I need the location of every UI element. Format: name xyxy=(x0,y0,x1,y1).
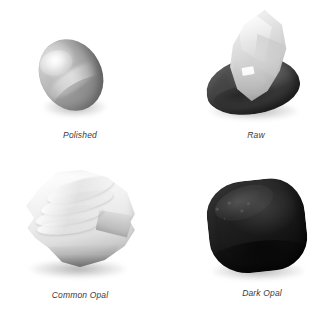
common-opal-stone xyxy=(24,170,136,270)
common-opal-dark-edge xyxy=(96,210,134,242)
dark-opal-stone xyxy=(203,175,310,277)
specimen-caption-dark-opal: Dark Opal xyxy=(200,288,324,298)
specimen-caption-polished: Polished xyxy=(34,130,126,140)
surface-grain xyxy=(209,197,257,229)
polished-highlight-band xyxy=(44,56,102,104)
specimen-figure: Polished Raw xyxy=(0,0,330,309)
specimen-caption-common-opal: Common Opal xyxy=(12,290,148,300)
specimen-caption-raw: Raw xyxy=(196,130,316,140)
